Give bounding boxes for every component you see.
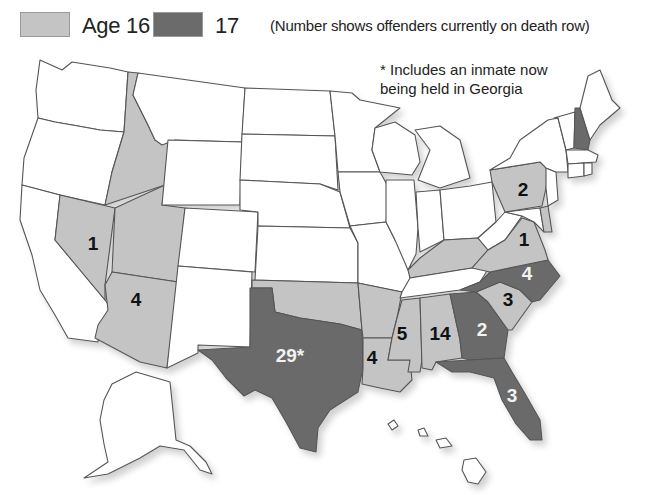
state-hawaii-big-island [462, 458, 486, 484]
state-new-york [490, 118, 568, 172]
label-south-carolina: 3 [503, 289, 514, 310]
state-kansas [255, 226, 358, 283]
state-wyoming [162, 140, 242, 205]
state-new-jersey [546, 168, 558, 206]
label-alabama: 14 [429, 323, 451, 344]
state-hawaii-island-1 [388, 420, 398, 430]
state-rhode-island [584, 163, 592, 176]
state-hawaii-island-2 [418, 428, 428, 436]
state-alaska [84, 372, 212, 478]
state-massachusetts [566, 150, 598, 164]
label-florida: 3 [507, 385, 518, 406]
state-florida [436, 358, 542, 440]
label-pennsylvania: 2 [518, 179, 529, 200]
us-map: 1 4 29* 4 5 14 2 3 3 4 1 2 [0, 0, 647, 495]
label-louisiana: 4 [367, 347, 378, 368]
state-colorado [178, 208, 258, 272]
state-arizona [95, 272, 178, 368]
state-north-dakota [242, 88, 335, 136]
label-georgia: 2 [477, 319, 488, 340]
state-connecticut [568, 163, 584, 178]
label-virginia: 1 [519, 229, 530, 250]
state-michigan [415, 126, 470, 188]
label-nevada: 1 [88, 233, 99, 254]
label-texas: 29* [276, 345, 305, 366]
label-arizona: 4 [131, 289, 142, 310]
label-mississippi: 5 [397, 323, 408, 344]
label-north-carolina: 4 [522, 263, 533, 284]
state-wisconsin [372, 122, 420, 175]
state-hawaii-island-3 [436, 438, 452, 448]
